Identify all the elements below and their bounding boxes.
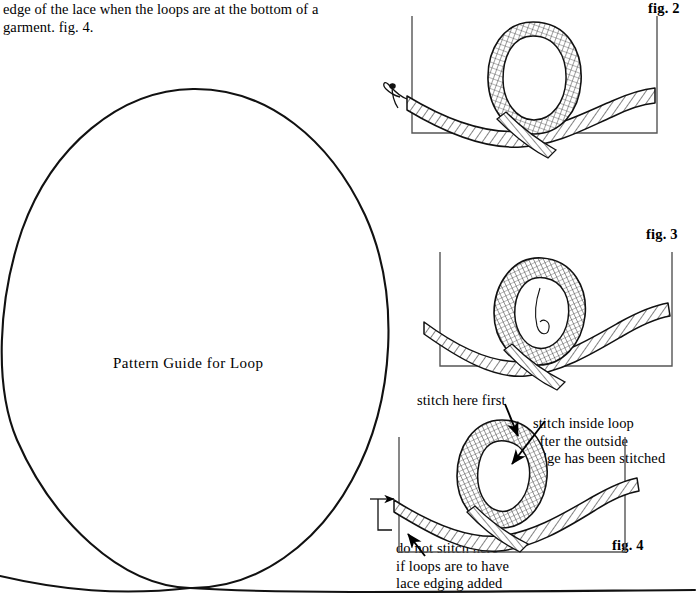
fig2-ribbon bbox=[407, 88, 655, 147]
fig3-loop bbox=[494, 258, 585, 390]
pattern-guide-oval bbox=[0, 89, 695, 592]
intro-paragraph: edge of the lace when the loops are at t… bbox=[3, 0, 403, 36]
annotation-do-not-stitch-here: do not stitch here if loops are to have … bbox=[396, 540, 509, 593]
fig2-loop bbox=[488, 22, 581, 158]
annotation-stitch-inside-loop: stitch inside loop after the outside edg… bbox=[533, 415, 665, 468]
fig3-ribbon bbox=[424, 303, 670, 376]
document-page: edge of the lace when the loops are at t… bbox=[0, 0, 697, 614]
fig2-frame bbox=[412, 16, 657, 133]
figure-label-fig4: fig. 4 bbox=[612, 537, 644, 554]
line-art-layer bbox=[0, 0, 697, 614]
figure-fig3 bbox=[424, 252, 672, 390]
figure-label-fig3: fig. 3 bbox=[646, 226, 678, 243]
fig4-annotation-arrows bbox=[408, 404, 545, 556]
pattern-guide-label: Pattern Guide for Loop bbox=[113, 355, 264, 372]
figure-fig2 bbox=[384, 16, 657, 158]
fig4-left-arrow bbox=[370, 499, 394, 530]
fig2-needle-thread bbox=[384, 83, 407, 108]
figure-label-fig2: fig. 2 bbox=[648, 0, 680, 17]
annotation-stitch-here-first: stitch here first bbox=[417, 392, 506, 410]
fig3-frame bbox=[440, 252, 672, 366]
